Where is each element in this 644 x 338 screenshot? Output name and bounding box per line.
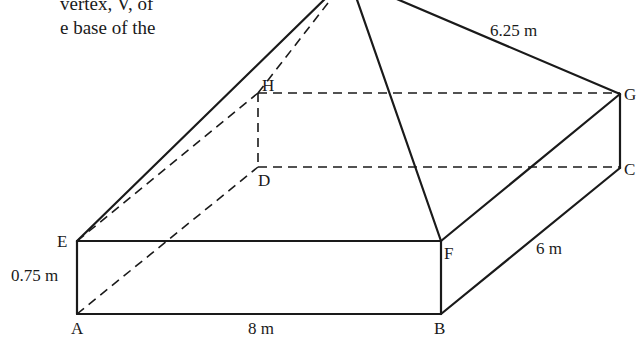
dimension-height: 0.75 m <box>11 267 58 284</box>
edge-GV <box>385 0 620 94</box>
vertex-label-H: H <box>262 77 274 94</box>
vertex-label-E: E <box>57 233 67 250</box>
vertex-label-C: C <box>624 161 635 178</box>
vertex-label-G: G <box>624 86 636 103</box>
edge-EV <box>77 0 330 241</box>
prism-pyramid-diagram <box>0 0 644 338</box>
vertex-label-B: B <box>434 320 445 337</box>
edge-FV <box>355 0 441 241</box>
vertex-label-F: F <box>444 245 453 262</box>
edge-BC <box>441 168 620 314</box>
dimension-slant-edge: 6.25 m <box>490 22 537 39</box>
dimension-width: 6 m <box>536 240 562 257</box>
edge-EH <box>77 93 258 241</box>
dimension-length: 8 m <box>248 320 274 337</box>
vertex-label-A: A <box>71 320 83 337</box>
vertex-label-D: D <box>258 172 270 189</box>
